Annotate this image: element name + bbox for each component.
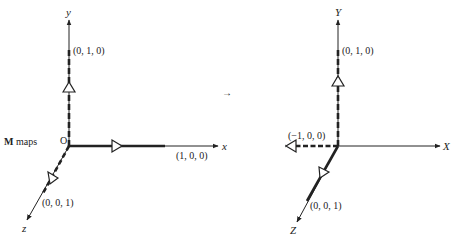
left-y-direction-icon xyxy=(63,82,75,92)
left-coordinate-frame: y (0, 1, 0) O (1, 0, 0) x (0, 0, 1) z xyxy=(21,6,227,234)
left-z-axis-label: z xyxy=(21,222,27,234)
left-z-vector xyxy=(42,146,69,195)
right-y-axis-label: Y xyxy=(335,6,343,18)
right-y-direction-icon xyxy=(332,76,344,86)
right-z-axis-label: Z xyxy=(290,224,297,236)
right-point-z-label: (0, 0, 1) xyxy=(310,200,342,212)
right-coordinate-frame: Y (0, 1, 0) (−1, 0, 0) X (0, 0, 1) Z xyxy=(285,6,451,236)
left-y-axis-label: y xyxy=(65,6,71,18)
right-neg-x-direction-icon xyxy=(286,140,296,152)
left-x-direction-icon xyxy=(112,140,122,152)
transformation-diagram: y (0, 1, 0) O (1, 0, 0) x (0, 0, 1) z M … xyxy=(0,0,472,246)
left-point-x-label: (1, 0, 0) xyxy=(176,150,208,162)
right-point-y-label: (0, 1, 0) xyxy=(342,45,374,57)
maps-caption: M maps xyxy=(4,136,37,147)
left-point-y-label: (0, 1, 0) xyxy=(73,45,105,57)
left-origin-label: O xyxy=(60,135,67,146)
right-point-neg-x-label: (−1, 0, 0) xyxy=(288,130,325,142)
left-x-axis-label: x xyxy=(221,140,227,152)
maps-arrow-icon: → xyxy=(222,87,232,98)
right-x-axis-label: X xyxy=(442,140,451,152)
left-point-z-label: (0, 0, 1) xyxy=(42,197,74,209)
maps-text: maps xyxy=(13,136,37,147)
